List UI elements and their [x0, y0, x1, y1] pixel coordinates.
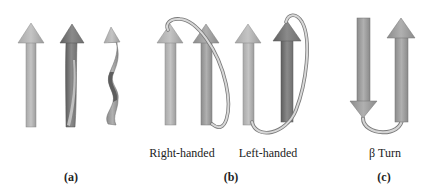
strand-arrow-icon [157, 24, 183, 125]
caption-right-handed: Right-handed [149, 146, 214, 161]
down-strand-arrow-icon [350, 18, 377, 118]
twisted-strand-arrow-icon [60, 24, 84, 127]
panel-label-c: (c) [377, 170, 390, 185]
right-handed-crossover [157, 19, 228, 127]
panel-c [350, 18, 415, 132]
caption-left-handed: Left-handed [239, 146, 298, 161]
panel-label-b: (b) [224, 170, 239, 185]
panel-b [157, 15, 307, 133]
panel-label-a: (a) [64, 170, 78, 185]
strand-arrow-icon [235, 24, 261, 125]
panel-a [18, 23, 120, 127]
helical-strand-arrow-icon [104, 27, 120, 125]
caption-beta-turn: β Turn [369, 146, 401, 161]
up-strand-arrow-icon [387, 18, 415, 122]
flat-strand-arrow-icon [18, 23, 44, 127]
beta-strand-figure [0, 0, 430, 195]
left-handed-crossover [235, 15, 307, 133]
